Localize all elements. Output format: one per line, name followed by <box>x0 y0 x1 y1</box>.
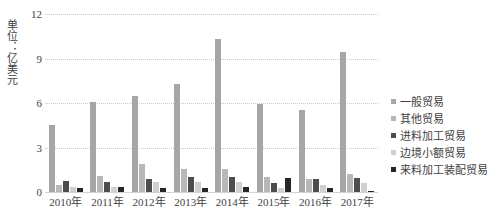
legend-swatch-icon <box>391 99 396 104</box>
y-tick-label-0: 0 <box>37 187 43 198</box>
bar <box>222 169 228 192</box>
legend-item[interactable]: 一般贸易 <box>391 93 489 110</box>
bar <box>313 179 319 192</box>
bar-group <box>87 14 129 192</box>
bar <box>132 96 138 192</box>
bar <box>90 102 96 192</box>
gridline-0 <box>45 192 378 193</box>
y-tick-label-12: 12 <box>31 9 42 20</box>
y-tick-label-6: 6 <box>37 98 43 109</box>
chart-legend: 一般贸易其他贸易进料加工贸易边境小额贸易来料加工装配贸易 <box>391 93 489 178</box>
bar <box>146 179 152 192</box>
bar <box>202 188 208 192</box>
y-axis-tick-labels: 036912 <box>22 14 42 192</box>
legend-swatch-icon <box>391 167 396 172</box>
bar <box>49 125 55 192</box>
x-tick-label: 2017年 <box>336 196 378 208</box>
bar <box>215 39 221 192</box>
x-tick-label: 2011年 <box>87 196 129 208</box>
y-axis-title: 单位：亿美元 <box>2 6 18 98</box>
bar <box>229 177 235 192</box>
bar <box>70 187 76 192</box>
bar <box>188 177 194 192</box>
bar <box>327 188 333 192</box>
legend-item[interactable]: 其他贸易 <box>391 110 489 127</box>
bar-group <box>45 14 87 192</box>
legend-swatch-icon <box>391 133 396 138</box>
legend-item[interactable]: 进料加工贸易 <box>391 127 489 144</box>
bar <box>361 183 367 192</box>
bar <box>111 187 117 192</box>
bar <box>174 84 180 192</box>
bar-group <box>170 14 212 192</box>
bar <box>118 187 124 192</box>
bar <box>195 182 201 192</box>
bar <box>264 177 270 192</box>
bar <box>299 110 305 192</box>
x-tick-label: 2016年 <box>295 196 337 208</box>
bar <box>257 104 263 192</box>
legend-swatch-icon <box>391 150 396 155</box>
bar <box>271 183 277 192</box>
bar <box>104 182 110 192</box>
legend-swatch-icon <box>391 116 396 121</box>
bar <box>306 179 312 192</box>
y-tick-label-9: 9 <box>37 53 43 64</box>
x-axis-tick-labels: 2010年2011年2012年2013年2014年2015年2016年2017年 <box>45 196 378 208</box>
legend-item[interactable]: 边境小额贸易 <box>391 144 489 161</box>
x-tick-label: 2014年 <box>212 196 254 208</box>
x-tick-label: 2013年 <box>170 196 212 208</box>
legend-item-label: 进料加工贸易 <box>400 130 466 142</box>
x-tick-label: 2015年 <box>253 196 295 208</box>
bar <box>56 185 62 192</box>
bar <box>77 188 83 192</box>
legend-item-label: 边境小额贸易 <box>400 147 466 159</box>
bar <box>139 164 145 192</box>
legend-item-label: 一般贸易 <box>400 96 444 108</box>
legend-item-label: 来料加工装配贸易 <box>400 164 488 176</box>
bar <box>347 174 353 192</box>
bar <box>368 191 374 192</box>
bar <box>285 178 291 192</box>
bar-group <box>253 14 295 192</box>
legend-item[interactable]: 来料加工装配贸易 <box>391 161 489 178</box>
bar-group <box>128 14 170 192</box>
bar-groups <box>45 14 378 192</box>
bar <box>63 181 69 192</box>
bar-group <box>336 14 378 192</box>
bar-group <box>212 14 254 192</box>
bar <box>354 178 360 192</box>
bar <box>153 182 159 192</box>
plot-area <box>45 14 378 192</box>
x-tick-label: 2010年 <box>45 196 87 208</box>
bar <box>97 176 103 192</box>
bar-group <box>295 14 337 192</box>
bar <box>243 187 249 192</box>
bar <box>160 188 166 192</box>
bar <box>181 169 187 192</box>
bar <box>236 182 242 192</box>
bar <box>320 185 326 192</box>
legend-item-label: 其他贸易 <box>400 113 444 125</box>
bar-chart: 单位：亿美元 036912 2010年2011年2012年2013年2014年2… <box>0 0 489 224</box>
bar <box>278 188 284 192</box>
bar <box>340 52 346 192</box>
x-tick-label: 2012年 <box>128 196 170 208</box>
y-tick-label-3: 3 <box>37 142 43 153</box>
